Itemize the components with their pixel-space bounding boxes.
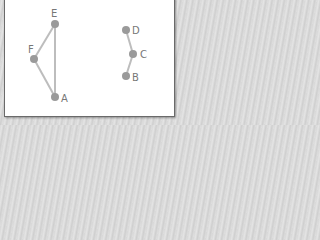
node-B	[122, 72, 130, 80]
label-E: E	[51, 8, 57, 19]
edge-F-A	[34, 59, 55, 97]
label-B: B	[132, 72, 139, 83]
edge-E-F	[34, 24, 55, 59]
labels: E F A D C B	[28, 8, 147, 104]
node-A	[51, 93, 59, 101]
node-E	[51, 20, 59, 28]
node-F	[30, 55, 38, 63]
graph-canvas: E F A D C B	[0, 0, 177, 125]
label-A: A	[61, 93, 68, 104]
nodes	[30, 20, 137, 101]
label-D: D	[132, 25, 140, 36]
label-F: F	[28, 44, 34, 55]
node-C	[129, 50, 137, 58]
node-D	[122, 26, 130, 34]
edges	[34, 24, 133, 97]
label-C: C	[140, 49, 147, 60]
